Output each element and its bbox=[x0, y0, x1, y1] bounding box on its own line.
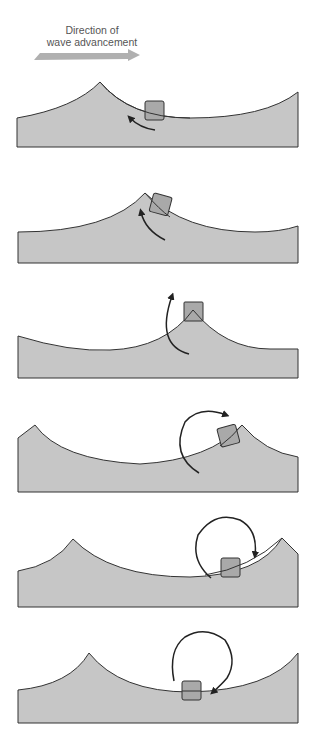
panel-6 bbox=[18, 632, 298, 723]
panel-5 bbox=[18, 517, 298, 607]
diagram-canvas bbox=[0, 0, 317, 733]
wave-6 bbox=[18, 653, 298, 723]
direction-arrow-icon bbox=[34, 49, 140, 61]
panel-2 bbox=[18, 193, 298, 263]
motion-arrow-icon bbox=[172, 632, 232, 692]
wave-4 bbox=[18, 425, 298, 492]
floating-object bbox=[217, 424, 240, 447]
floating-object bbox=[149, 193, 172, 216]
floating-object bbox=[221, 558, 240, 577]
panel-4 bbox=[18, 411, 298, 492]
panel-3 bbox=[18, 296, 298, 378]
wave-orbital-motion-diagram: Direction of wave advancement bbox=[0, 0, 317, 733]
floating-object bbox=[145, 101, 164, 120]
panel-1 bbox=[17, 82, 298, 147]
wave-3 bbox=[18, 310, 298, 378]
